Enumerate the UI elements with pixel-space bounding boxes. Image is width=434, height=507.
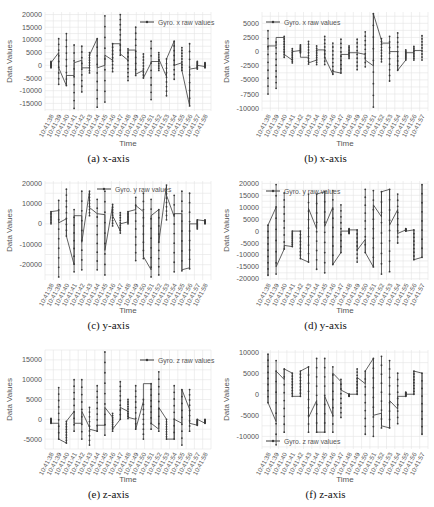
legend: Gyro. z raw values (266, 438, 341, 446)
y-tick-label: 5000 (26, 395, 42, 404)
line-chart-gyro-x-a: 20000150001000050000-5000-10000-15000Dat… (0, 0, 217, 152)
y-tick-label: -10000 (237, 250, 259, 259)
y-axis-label: Data Values (222, 40, 231, 83)
y-tick-label: -2500 (241, 61, 259, 70)
plot-area (262, 181, 428, 280)
legend-label: Gyro. x raw values (158, 19, 215, 27)
y-tick-label: 0 (255, 47, 259, 56)
y-tick-label: -5000 (24, 435, 42, 444)
y-tick-label: 0 (38, 219, 42, 228)
y-tick-label: 15000 (22, 23, 42, 32)
y-tick-label: -15000 (237, 262, 259, 271)
y-tick-label: -20000 (20, 260, 42, 269)
y-tick-label: 10000 (22, 199, 42, 208)
line-chart-gyro-z-e: 150001000050000-5000Data Values10:41:381… (0, 338, 217, 488)
panel-b: 500025000-2500-5000-7500-10000Data Value… (217, 0, 434, 169)
y-tick-label: 15000 (22, 355, 42, 364)
x-axis-label: Time (119, 139, 137, 148)
y-tick-label: -10000 (20, 240, 42, 249)
y-axis-label: Data Values (222, 378, 231, 421)
caption-e: (e) z-axis (0, 488, 217, 500)
panel-c: 20000100000-10000-20000Data Values10:41:… (0, 169, 217, 338)
legend-label: Gyro. y raw values (284, 188, 341, 196)
y-tick-label: -10000 (237, 432, 259, 441)
plot-area (262, 12, 428, 111)
y-tick-label: 10000 (22, 375, 42, 384)
x-axis-label: Time (119, 475, 137, 484)
y-tick-label: 5000 (243, 369, 259, 378)
legend: Gyro. x raw values (266, 19, 341, 27)
y-tick-label: 2500 (243, 33, 259, 42)
caption-f: (f) z-axis (217, 488, 434, 500)
y-tick-label: 0 (255, 227, 259, 236)
caption-c: (c) y-axis (0, 319, 217, 331)
panel-d: 20000150001000050000-5000-10000-15000-20… (217, 169, 434, 338)
legend: Gyro. z raw values (140, 357, 215, 365)
y-tick-label: 5000 (243, 215, 259, 224)
legend: Gyro. y raw values (266, 188, 341, 196)
x-axis-label: Time (336, 475, 354, 484)
y-tick-label: -7500 (241, 90, 259, 99)
line-chart-gyro-z-f: 1000050000-5000-10000Data Values10:41:38… (217, 338, 434, 488)
y-tick-label: 0 (38, 61, 42, 70)
caption-d: (d) y-axis (217, 319, 434, 331)
y-tick-label: 0 (38, 415, 42, 424)
plot-area (45, 181, 211, 280)
y-tick-label: 5000 (243, 19, 259, 28)
y-tick-label: 20000 (22, 10, 42, 19)
legend-label: Gyro. z raw values (158, 357, 215, 365)
y-tick-label: 20000 (239, 179, 259, 188)
y-tick-label: 10000 (239, 348, 259, 357)
panel-e: 150001000050000-5000Data Values10:41:381… (0, 338, 217, 507)
y-tick-label: 20000 (22, 179, 42, 188)
y-tick-label: -5000 (241, 411, 259, 420)
y-axis-label: Data Values (5, 40, 14, 83)
y-tick-label: 0 (255, 390, 259, 399)
y-tick-label: 10000 (239, 203, 259, 212)
panel-f: 1000050000-5000-10000Data Values10:41:38… (217, 338, 434, 507)
legend-label: Gyro. z raw values (284, 438, 341, 446)
y-tick-label: 10000 (22, 35, 42, 44)
plot-area (262, 350, 428, 449)
y-tick-label: 5000 (26, 48, 42, 57)
y-tick-label: -10000 (20, 86, 42, 95)
legend: Gyro. x raw values (140, 19, 215, 27)
y-axis-label: Data Values (222, 209, 231, 252)
legend: Gyro. y raw values (97, 186, 172, 194)
caption-b: (b) x-axis (217, 152, 434, 164)
x-axis-label: Time (119, 306, 137, 315)
y-tick-label: -5000 (241, 75, 259, 84)
line-chart-gyro-y-d: 20000150001000050000-5000-10000-15000-20… (217, 169, 434, 319)
x-axis-label: Time (336, 139, 354, 148)
x-axis-label: Time (336, 306, 354, 315)
y-tick-label: -5000 (241, 239, 259, 248)
line-chart-gyro-x-b: 500025000-2500-5000-7500-10000Data Value… (217, 0, 434, 152)
y-tick-label: -15000 (20, 99, 42, 108)
panel-a: 20000150001000050000-5000-10000-15000Dat… (0, 0, 217, 169)
y-tick-label: -5000 (24, 74, 42, 83)
y-tick-label: 15000 (239, 191, 259, 200)
y-axis-label: Data Values (5, 378, 14, 421)
legend-label: Gyro. x raw values (284, 19, 341, 27)
legend-label: Gyro. y raw values (115, 186, 172, 194)
y-tick-label: -20000 (237, 274, 259, 283)
line-chart-gyro-y-c: 20000100000-10000-20000Data Values10:41:… (0, 169, 217, 319)
y-axis-label: Data Values (5, 209, 14, 252)
figure-grid: 20000150001000050000-5000-10000-15000Dat… (0, 0, 434, 507)
caption-a: (a) x-axis (0, 152, 217, 164)
y-tick-label: -10000 (237, 104, 259, 113)
